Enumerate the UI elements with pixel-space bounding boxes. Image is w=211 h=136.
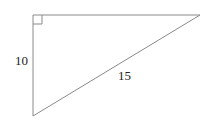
- hypotenuse-label: 15: [118, 68, 131, 83]
- triangle-diagram: 10 15: [0, 0, 211, 136]
- right-angle-marker: [33, 15, 42, 24]
- vertical-leg-label: 10: [15, 53, 28, 68]
- right-triangle: [33, 15, 200, 116]
